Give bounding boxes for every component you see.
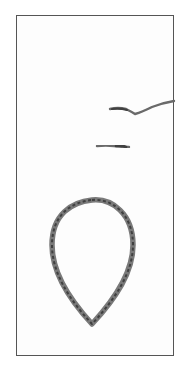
figure-description: Scanned specimen image: a braided fiber … bbox=[0, 0, 1, 1]
specimen-drawing bbox=[0, 0, 187, 370]
braided-loop bbox=[52, 200, 133, 324]
fiber-fragment-upper bbox=[110, 101, 174, 114]
fiber-fragment-lower bbox=[97, 146, 129, 148]
